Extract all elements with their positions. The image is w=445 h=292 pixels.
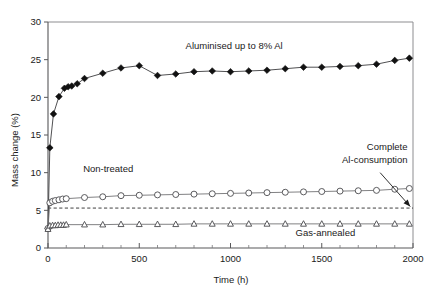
x-tick-label: 0	[45, 253, 50, 264]
data-point-circle	[406, 185, 412, 191]
data-point-circle	[337, 188, 343, 194]
x-tick-label: 2000	[402, 253, 423, 264]
y-tick-label: 30	[30, 16, 41, 27]
data-point-circle	[63, 196, 69, 202]
data-point-circle	[155, 192, 161, 198]
data-point-circle	[228, 190, 234, 196]
data-point-circle	[136, 192, 142, 198]
data-point-circle	[301, 189, 307, 195]
non-treated-label: Non-treated	[83, 163, 133, 174]
complete-consumption-line1: Complete	[367, 141, 408, 152]
x-tick-label: 1000	[220, 253, 241, 264]
x-axis-title: Time (h)	[213, 274, 248, 285]
data-point-circle	[191, 191, 197, 197]
data-point-circle	[319, 189, 325, 195]
y-tick-label: 25	[30, 54, 41, 65]
data-point-circle	[82, 195, 88, 201]
y-tick-label: 5	[36, 205, 41, 216]
data-point-circle	[100, 194, 106, 200]
y-tick-label: 10	[30, 167, 41, 178]
complete-consumption-line2: Al-consumption	[342, 154, 407, 165]
y-tick-label: 0	[36, 242, 41, 253]
y-tick-label: 20	[30, 92, 41, 103]
y-tick-label: 15	[30, 129, 41, 140]
data-point-circle	[264, 190, 270, 196]
data-point-circle	[355, 188, 361, 194]
aluminised-label: Aluminised up to 8% Al	[186, 40, 283, 51]
data-point-circle	[173, 192, 179, 198]
data-point-circle	[209, 191, 215, 197]
data-point-circle	[118, 193, 124, 199]
mass-change-vs-time-chart: 0510152025300500100015002000 Aluminised …	[0, 0, 445, 292]
x-tick-label: 500	[131, 253, 147, 264]
data-point-circle	[374, 187, 380, 193]
x-tick-label: 1500	[311, 253, 332, 264]
data-point-circle	[282, 189, 288, 195]
chart-figure: 0510152025300500100015002000 Aluminised …	[0, 0, 445, 292]
y-axis-title: Mass change (%)	[9, 113, 20, 187]
data-point-circle	[246, 190, 252, 196]
gas-annealed-label: Gas-annealed	[296, 227, 356, 238]
